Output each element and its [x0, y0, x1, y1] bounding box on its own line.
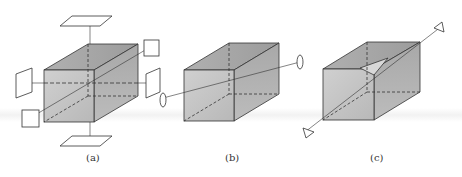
panel-c-label: (c)	[370, 152, 383, 163]
panel-b-label: (b)	[225, 152, 239, 163]
plane-bottom	[60, 136, 112, 146]
plane-back	[144, 40, 159, 56]
plane-left	[16, 68, 32, 98]
ring-left	[160, 93, 166, 107]
panel-c-cube	[303, 22, 444, 138]
figure-canvas	[0, 0, 462, 177]
panel-a-label: (a)	[86, 152, 100, 163]
ring-right	[297, 55, 303, 69]
panel-b-cube	[160, 43, 303, 121]
panel-a-cube	[16, 16, 160, 146]
arrowhead-top	[434, 22, 444, 32]
plane-front	[22, 110, 39, 127]
plane-right	[146, 68, 160, 98]
plane-top	[60, 16, 112, 26]
